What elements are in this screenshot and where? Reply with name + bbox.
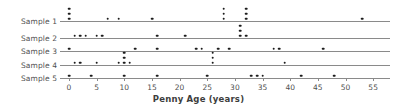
data-point	[223, 17, 226, 20]
dot-plot-chart: Sample 1Sample 2Sample 3Sample 4Sample 5…	[0, 0, 397, 107]
data-point	[151, 17, 154, 20]
data-point	[68, 74, 71, 77]
data-point	[68, 17, 71, 20]
data-point	[211, 51, 214, 54]
sample-row-label-5: Sample 5	[0, 73, 57, 82]
x-axis-tick	[180, 78, 181, 81]
x-axis-tick-label: 45	[313, 83, 323, 92]
x-axis-title: Penny Age (years)	[0, 94, 397, 104]
data-point	[239, 29, 242, 32]
x-axis-tick-label: 25	[202, 83, 212, 92]
sample-row-label-1: Sample 1	[0, 16, 57, 25]
data-point	[68, 7, 71, 10]
data-point	[300, 74, 303, 77]
sample-axis-line	[60, 51, 390, 52]
data-point	[123, 74, 126, 77]
data-point	[79, 61, 82, 64]
x-axis-tick-label: 30	[230, 83, 240, 92]
sample-row-label-2: Sample 2	[0, 33, 57, 42]
x-axis-tick-label: 50	[341, 83, 351, 92]
data-point	[95, 61, 98, 64]
x-axis-tick	[69, 78, 70, 81]
data-point	[245, 34, 248, 37]
x-axis-tick	[152, 78, 153, 81]
data-point	[84, 34, 87, 37]
data-point	[322, 47, 325, 50]
data-point	[239, 24, 242, 27]
data-point	[129, 61, 132, 64]
data-point	[261, 74, 264, 77]
data-point	[95, 34, 98, 37]
x-axis-tick	[207, 78, 208, 81]
x-axis-tick	[373, 78, 374, 81]
x-axis-tick-label: 40	[285, 83, 295, 92]
data-point	[256, 74, 259, 77]
data-point	[245, 12, 248, 15]
data-point	[134, 47, 137, 50]
data-point	[123, 61, 126, 64]
sample-row-label-4: Sample 4	[0, 60, 57, 69]
sample-axis-line	[60, 38, 390, 39]
sample-row-label-3: Sample 3	[0, 46, 57, 55]
data-point	[156, 34, 159, 37]
x-axis-tick-label: 15	[147, 83, 157, 92]
sample-axis-line	[60, 21, 390, 22]
sample-axis-line	[60, 78, 390, 79]
x-axis-tick-label: 5	[94, 83, 99, 92]
data-point	[333, 74, 336, 77]
data-point	[156, 74, 159, 77]
x-axis-tick-label: 0	[67, 83, 72, 92]
x-axis-tick-label: 10	[120, 83, 130, 92]
x-axis-tick	[346, 78, 347, 81]
data-point	[101, 34, 104, 37]
data-point	[117, 17, 120, 20]
data-point	[73, 61, 76, 64]
data-point	[361, 17, 364, 20]
data-point	[223, 12, 226, 15]
data-point	[217, 47, 220, 50]
data-point	[117, 61, 120, 64]
data-point	[123, 56, 126, 59]
x-axis-tick-label: 20	[175, 83, 185, 92]
data-point	[200, 47, 203, 50]
x-axis-tick	[124, 78, 125, 81]
data-point	[184, 34, 187, 37]
data-point	[278, 47, 281, 50]
data-point	[195, 47, 198, 50]
data-point	[283, 61, 286, 64]
data-point	[106, 17, 109, 20]
data-point	[73, 34, 76, 37]
sample-axis-line	[60, 65, 390, 66]
x-axis-tick-label: 55	[368, 83, 378, 92]
data-point	[156, 47, 159, 50]
x-axis-tick	[97, 78, 98, 81]
data-point	[211, 56, 214, 59]
x-axis-tick	[263, 78, 264, 81]
data-point	[123, 51, 126, 54]
x-axis-tick-label: 35	[258, 83, 268, 92]
data-point	[228, 47, 231, 50]
data-point	[68, 12, 71, 15]
data-point	[239, 34, 242, 37]
data-point	[79, 34, 82, 37]
data-point	[206, 74, 209, 77]
data-point	[245, 17, 248, 20]
x-axis-tick	[235, 78, 236, 81]
data-point	[245, 7, 248, 10]
data-point	[211, 61, 214, 64]
data-point	[272, 47, 275, 50]
x-axis-tick	[290, 78, 291, 81]
data-point	[223, 7, 226, 10]
data-point	[90, 74, 93, 77]
data-point	[68, 47, 71, 50]
x-axis-tick	[318, 78, 319, 81]
data-point	[250, 74, 253, 77]
